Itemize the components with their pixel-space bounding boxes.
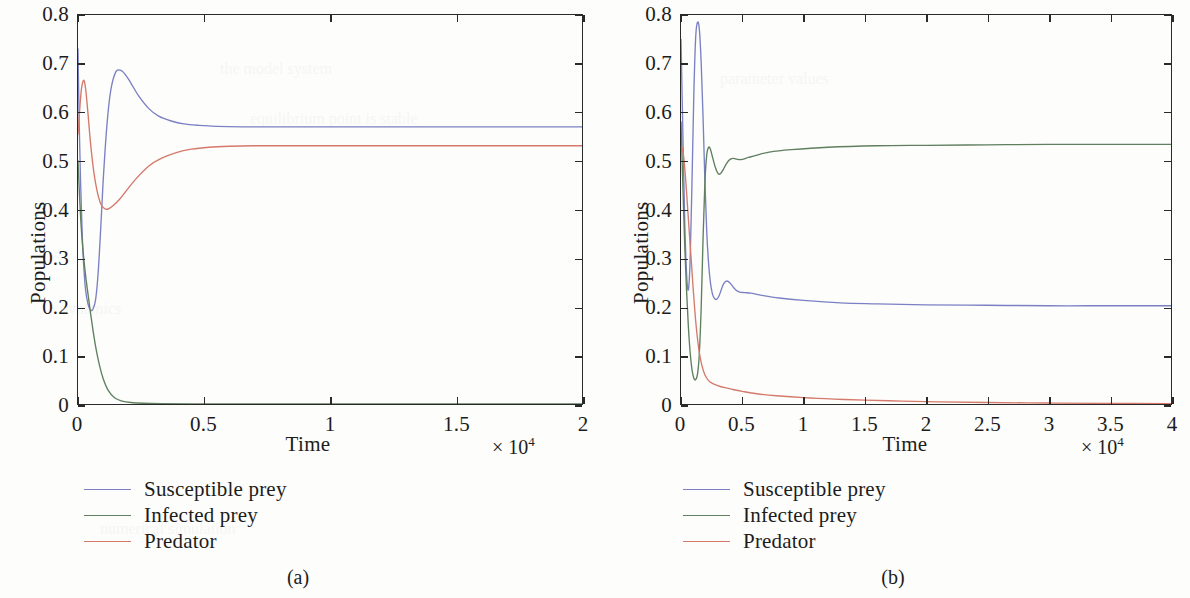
series-line (78, 161, 582, 404)
panel-caption-b: (b) (853, 566, 933, 589)
y-tick-label: 0.8 (626, 4, 672, 25)
legend-item[interactable]: Predator (84, 528, 287, 554)
x-tick (680, 15, 681, 22)
series-line (78, 80, 582, 209)
y-tick (78, 210, 85, 211)
curves-b (681, 15, 1171, 404)
x-tick (926, 397, 927, 404)
y-tick-label: 0.1 (626, 346, 672, 367)
legend-item[interactable]: Infected prey (683, 502, 886, 528)
y-tick-label: 0.1 (23, 346, 69, 367)
series-line (681, 122, 1171, 380)
y-tick-label: 0.8 (23, 4, 69, 25)
legend-color-swatch (84, 489, 131, 490)
panel-b: Populations Time × 104 Susceptible preyI… (595, 0, 1190, 598)
legend-color-swatch (683, 541, 730, 542)
y-tick (1164, 14, 1171, 15)
y-tick (575, 14, 582, 15)
y-tick (1164, 63, 1171, 64)
y-tick (681, 308, 688, 309)
y-tick (78, 112, 85, 113)
y-tick-label: 0.6 (23, 102, 69, 123)
x-tick (77, 397, 78, 404)
y-tick (575, 356, 582, 357)
y-tick (78, 63, 85, 64)
legend-item[interactable]: Susceptible prey (683, 476, 886, 502)
x-tick (742, 15, 743, 22)
legend-label: Predator (144, 531, 217, 552)
x-tick (1172, 397, 1173, 404)
legend-color-swatch (84, 515, 131, 516)
x-tick (742, 397, 743, 404)
legend-item[interactable]: Infected prey (84, 502, 287, 528)
x-tick (803, 15, 804, 22)
legend-color-swatch (683, 489, 730, 490)
y-tick (575, 161, 582, 162)
y-tick (1164, 259, 1171, 260)
y-tick-label: 0.7 (23, 53, 69, 74)
y-tick (1164, 161, 1171, 162)
y-tick (681, 161, 688, 162)
y-tick (1164, 405, 1171, 406)
y-tick-label: 0 (23, 395, 69, 416)
y-tick (681, 112, 688, 113)
x-tick-label: 4 (1142, 414, 1190, 435)
y-tick (78, 356, 85, 357)
x-tick (680, 397, 681, 404)
panel-caption-a: (a) (258, 566, 338, 589)
exponent-prefix: × 10 (1081, 436, 1117, 458)
y-tick (78, 405, 85, 406)
y-tick (575, 405, 582, 406)
x-tick (204, 397, 205, 404)
x-tick-label: 0.5 (174, 414, 234, 435)
y-tick (575, 308, 582, 309)
x-tick (583, 397, 584, 404)
x-tick-label: 2 (896, 414, 956, 435)
legend-label: Infected prey (743, 505, 857, 526)
legend-b: Susceptible preyInfected preyPredator (683, 476, 886, 554)
y-tick-label: 0.2 (626, 297, 672, 318)
x-tick (865, 397, 866, 404)
panel-a: Populations Time × 104 Susceptible preyI… (0, 0, 595, 598)
legend-label: Predator (743, 531, 816, 552)
x-tick-label: 1.5 (427, 414, 487, 435)
y-tick-label: 0.4 (23, 200, 69, 221)
y-tick (78, 259, 85, 260)
x-tick-label: 0 (650, 414, 710, 435)
exponent-prefix: × 10 (492, 436, 528, 458)
x-tick (1172, 15, 1173, 22)
y-tick-label: 0.3 (23, 248, 69, 269)
y-tick-label: 0.4 (626, 200, 672, 221)
y-tick (1164, 308, 1171, 309)
x-tick (583, 15, 584, 22)
legend-item[interactable]: Susceptible prey (84, 476, 287, 502)
legend-label: Susceptible prey (743, 479, 886, 500)
x-axis-exponent: × 104 (1081, 434, 1124, 459)
y-tick (78, 14, 85, 15)
plot-area-a (77, 14, 583, 405)
x-tick (1049, 397, 1050, 404)
x-tick-label: 2.5 (958, 414, 1018, 435)
x-tick (1111, 397, 1112, 404)
y-tick (681, 63, 688, 64)
x-tick (926, 15, 927, 22)
x-tick-label: 1.5 (835, 414, 895, 435)
x-tick-label: 0 (47, 414, 107, 435)
x-axis-title: Time (248, 432, 368, 457)
x-tick-label: 3.5 (1081, 414, 1141, 435)
y-tick (78, 308, 85, 309)
exponent-power: 4 (1117, 434, 1124, 449)
x-tick (330, 15, 331, 22)
x-tick-label: 1 (773, 414, 833, 435)
legend-item[interactable]: Predator (683, 528, 886, 554)
legend-a: Susceptible preyInfected preyPredator (84, 476, 287, 554)
y-tick (681, 405, 688, 406)
figure-container: the model system equilibrium point is st… (0, 0, 1190, 598)
y-tick (1164, 356, 1171, 357)
x-tick-label: 3 (1019, 414, 1079, 435)
y-tick-label: 0 (626, 395, 672, 416)
y-tick (575, 210, 582, 211)
x-tick (457, 397, 458, 404)
y-tick (681, 259, 688, 260)
x-tick (457, 15, 458, 22)
